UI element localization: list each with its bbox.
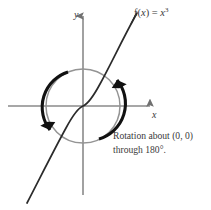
function-label: f(x) = x3 bbox=[134, 8, 169, 19]
function-label-suffix: ) = bbox=[146, 7, 161, 18]
figure-canvas bbox=[0, 0, 211, 210]
caption-line-1: Rotation about (0, 0) bbox=[113, 129, 193, 143]
function-label-exponent: 3 bbox=[165, 6, 169, 14]
function-label-prefix: f( bbox=[134, 7, 141, 18]
caption-line-2: through 180°. bbox=[113, 143, 193, 157]
rotation-caption: Rotation about (0, 0) through 180°. bbox=[113, 129, 193, 156]
cubic-rotation-figure: f(x) = x3 y x Rotation about (0, 0) thro… bbox=[0, 0, 211, 210]
x-axis-label: x bbox=[152, 110, 156, 120]
y-axis-label: y bbox=[74, 10, 78, 20]
